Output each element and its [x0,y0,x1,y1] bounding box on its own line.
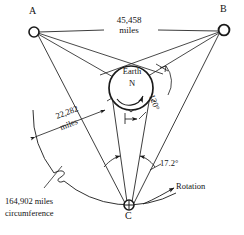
angle-17-label: 17.2° [160,159,178,168]
rotation-label: Rotation [176,182,205,191]
point-a-label: A [29,6,36,17]
point-c-marker [124,200,134,210]
edge-ab-right [158,30,218,31]
circumference-value: 164,902 miles [5,197,53,206]
edge-bc [134,34,219,203]
point-a-marker [29,27,39,37]
point-c-label: C [125,211,132,222]
inner-dimension-tick [125,112,146,124]
apex-wedge-lines [112,96,150,202]
angle-17-pointers [104,156,161,170]
wedge-line-right [132,96,150,202]
circumference-leader [44,166,62,188]
point-b-marker [219,25,230,36]
point-b-label: B [220,4,227,15]
edge-ab-left [39,30,104,32]
circumference-word: circumference [5,209,54,218]
angle-120-arc [156,64,171,95]
earth-label: Earth [114,67,150,76]
chord-ab-unit: miles [98,26,160,36]
north-pole-label: N [114,79,150,88]
wedge-line-left [112,96,127,202]
satellite-orbit-diagram: A B C 45,458 miles Earth N 22,282 miles … [0,0,244,235]
